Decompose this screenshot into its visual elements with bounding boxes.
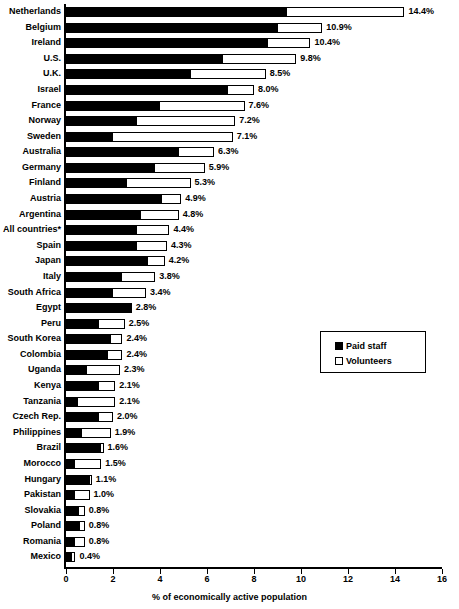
category-label: Peru (41, 317, 61, 330)
chart-bar-row: Slovakia0.8% (66, 505, 442, 518)
plot-area: Netherlands14.4%Belgium10.9%Ireland10.4%… (66, 6, 442, 567)
bar-segment-paid-staff (66, 38, 268, 48)
chart-legend: Paid staff Volunteers (320, 331, 426, 373)
bar-value-label: 3.8% (159, 270, 180, 283)
bar-segment-paid-staff (66, 256, 148, 266)
x-axis-tick-label: 14 (390, 574, 400, 584)
category-label: Uganda (28, 363, 61, 376)
chart-bar-row: France7.6% (66, 100, 442, 113)
category-label: Ireland (31, 36, 61, 49)
bar-segment-paid-staff (66, 101, 160, 111)
bar-value-label: 2.8% (136, 301, 157, 314)
bar-value-label: 2.4% (126, 332, 147, 345)
category-label: Israel (37, 83, 61, 96)
category-label: Finland (29, 176, 61, 189)
bar-segment-paid-staff (66, 475, 90, 485)
bar-value-label: 5.3% (195, 176, 216, 189)
chart-bar-row: Israel8.0% (66, 84, 442, 97)
category-label: Romania (23, 535, 61, 548)
bar-segment-paid-staff (66, 537, 75, 547)
bar-value-label: 3.4% (150, 286, 171, 299)
category-label: Norway (28, 114, 61, 127)
bar-value-label: 0.8% (89, 504, 110, 517)
category-label: Netherlands (9, 5, 61, 18)
chart-bar-row: Finland5.3% (66, 177, 442, 190)
bar-value-label: 0.4% (79, 550, 100, 563)
chart-bar-row: South Africa3.4% (66, 287, 442, 300)
bar-value-label: 10.4% (314, 36, 340, 49)
bar-segment-paid-staff (66, 350, 108, 360)
category-label: Sweden (27, 130, 61, 143)
chart-bar-row: Peru2.5% (66, 318, 442, 331)
bar-value-label: 1.9% (115, 426, 136, 439)
chart-bar-row: Norway7.2% (66, 115, 442, 128)
category-label: Colombia (20, 348, 61, 361)
x-axis-title: % of economically active population (0, 592, 459, 602)
bar-segment-paid-staff (66, 459, 75, 469)
chart-bar-row: Austria4.9% (66, 193, 442, 206)
bar-value-label: 2.4% (126, 348, 147, 361)
category-label: Kenya (34, 379, 61, 392)
bar-value-label: 7.1% (237, 130, 258, 143)
bar-value-label: 4.3% (171, 239, 192, 252)
legend-label-paid-staff: Paid staff (346, 341, 387, 351)
bar-value-label: 8.0% (258, 83, 279, 96)
x-axis-tick-label: 0 (63, 574, 68, 584)
bar-value-label: 2.1% (119, 379, 140, 392)
bar-value-label: 0.8% (89, 519, 110, 532)
category-label: South Korea (7, 332, 61, 345)
bar-segment-paid-staff (66, 365, 87, 375)
legend-label-volunteers: Volunteers (346, 356, 392, 366)
x-axis-tick-label: 16 (437, 574, 447, 584)
category-label: U.K. (43, 67, 61, 80)
bar-segment-paid-staff (66, 319, 99, 329)
chart-bar-row: Brazil1.6% (66, 442, 442, 455)
bar-segment-paid-staff (66, 334, 111, 344)
category-label: Philippines (13, 426, 61, 439)
bar-value-label: 1.0% (94, 488, 115, 501)
bar-value-label: 1.1% (96, 473, 117, 486)
bar-segment-paid-staff (66, 194, 162, 204)
bar-value-label: 14.4% (408, 5, 434, 18)
chart-bar-row: Czech Rep.2.0% (66, 411, 442, 424)
legend-swatch-volunteers-icon (335, 357, 343, 365)
category-label: All countries* (3, 223, 61, 236)
bar-segment-paid-staff (66, 210, 141, 220)
bar-value-label: 2.0% (117, 410, 138, 423)
bar-segment-paid-staff (66, 147, 179, 157)
bar-segment-paid-staff (66, 116, 137, 126)
chart-bar-row: Tanzania2.1% (66, 396, 442, 409)
bar-value-label: 2.1% (119, 395, 140, 408)
category-label: France (31, 99, 61, 112)
bar-segment-paid-staff (66, 7, 287, 17)
bar-value-label: 6.3% (218, 145, 239, 158)
legend-item-volunteers: Volunteers (335, 353, 425, 368)
bar-value-label: 9.8% (300, 52, 321, 65)
category-label: Austria (30, 192, 61, 205)
chart-bar-row: Spain4.3% (66, 240, 442, 253)
bar-segment-paid-staff (66, 490, 75, 500)
category-label: Hungary (24, 473, 61, 486)
bar-value-label: 4.4% (173, 223, 194, 236)
bar-value-label: 4.8% (183, 208, 204, 221)
bar-segment-paid-staff (66, 272, 122, 282)
chart-bar-row: Sweden7.1% (66, 131, 442, 144)
bar-value-label: 8.5% (270, 67, 291, 80)
bar-segment-paid-staff (66, 443, 101, 453)
chart-bar-row: Argentina4.8% (66, 209, 442, 222)
category-label: Tanzania (23, 395, 61, 408)
x-axis-tick-label: 12 (343, 574, 353, 584)
bar-value-label: 1.5% (105, 457, 126, 470)
bar-segment-paid-staff (66, 381, 99, 391)
bar-segment-paid-staff (66, 225, 137, 235)
bar-segment-paid-staff (66, 54, 223, 64)
bar-value-label: 2.3% (124, 363, 145, 376)
category-label: Brazil (36, 441, 61, 454)
bar-value-label: 1.6% (108, 441, 129, 454)
x-axis-line (64, 567, 442, 569)
chart-bar-row: Poland0.8% (66, 520, 442, 533)
legend-item-paid-staff: Paid staff (335, 338, 425, 353)
category-label: Belgium (25, 21, 61, 34)
x-axis-tick-label: 10 (296, 574, 306, 584)
bar-value-label: 4.9% (185, 192, 206, 205)
